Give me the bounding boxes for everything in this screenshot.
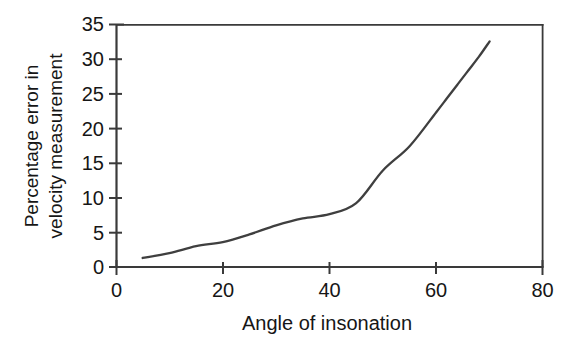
x-tick-label-0: 0 — [111, 279, 122, 301]
x-tick-label-60: 60 — [425, 279, 447, 301]
y-tick-label-35: 35 — [82, 13, 104, 35]
y-axis-title-line-1: Percentage error in — [21, 65, 42, 228]
y-tick-label-10: 10 — [82, 187, 104, 209]
x-tick-label-20: 20 — [212, 279, 234, 301]
x-tick-labels: 0 20 40 60 80 — [111, 279, 554, 301]
y-axis-title-line-2: velocity measurement — [45, 53, 66, 239]
chart-plot-area: 35 30 25 20 15 10 5 0 0 20 40 60 80 Angl… — [0, 0, 579, 345]
y-axis-title: Percentage error in velocity measurement — [21, 53, 66, 239]
plot-background — [116, 24, 543, 267]
x-tick-label-40: 40 — [318, 279, 340, 301]
chart-figure: 35 30 25 20 15 10 5 0 0 20 40 60 80 Angl… — [0, 0, 579, 345]
y-tick-label-25: 25 — [82, 83, 104, 105]
y-tick-label-30: 30 — [82, 48, 104, 70]
y-tick-label-0: 0 — [93, 256, 104, 278]
y-tick-label-5: 5 — [93, 222, 104, 244]
y-tick-label-15: 15 — [82, 152, 104, 174]
y-tick-label-20: 20 — [82, 118, 104, 140]
x-axis-title: Angle of insonation — [242, 312, 412, 334]
x-tick-label-80: 80 — [531, 279, 553, 301]
y-tick-labels: 35 30 25 20 15 10 5 0 — [82, 13, 104, 278]
